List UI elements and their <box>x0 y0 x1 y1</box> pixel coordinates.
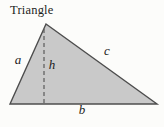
label-side-a: a <box>15 52 22 67</box>
label-side-b: b <box>79 102 86 117</box>
triangle-diagram: Triangle a h c b <box>0 0 164 127</box>
triangle-figure: a h c b <box>0 0 164 127</box>
label-side-c: c <box>104 43 110 58</box>
label-height-h: h <box>49 57 56 72</box>
triangle-shape <box>10 24 157 104</box>
